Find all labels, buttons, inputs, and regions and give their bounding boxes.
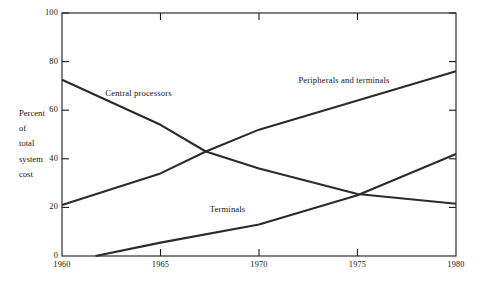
axis-frame xyxy=(62,13,456,256)
chart-plot-area xyxy=(0,0,480,289)
y-axis-title-line: Percent xyxy=(19,106,45,121)
y-axis-title-line: cost xyxy=(19,167,45,182)
series-annotation: Central processors xyxy=(105,88,171,98)
x-tick-label: 1965 xyxy=(144,260,178,269)
series-annotation: Terminals xyxy=(210,204,246,214)
chart-figure: 020406080100 19601965197019751980 Percen… xyxy=(0,0,480,289)
series-annotation: Peripherals and terminals xyxy=(298,75,389,85)
series-line-terminals xyxy=(95,154,456,256)
y-tick-label: 80 xyxy=(34,57,58,66)
x-tick-label: 1970 xyxy=(242,260,276,269)
x-tick-label: 1980 xyxy=(439,260,473,269)
y-axis-title-line: system xyxy=(19,152,45,167)
y-axis-title-line: total xyxy=(19,136,45,151)
y-axis-title-line: of xyxy=(19,121,45,136)
x-tick-label: 1960 xyxy=(45,260,79,269)
y-tick-label: 100 xyxy=(34,8,58,17)
x-tick-label: 1975 xyxy=(341,260,375,269)
y-tick-label: 0 xyxy=(34,251,58,260)
y-tick-label: 20 xyxy=(34,202,58,211)
series-lines xyxy=(62,71,456,256)
tick-marks xyxy=(62,13,456,256)
y-axis-title: Percentoftotalsystemcost xyxy=(19,106,45,182)
